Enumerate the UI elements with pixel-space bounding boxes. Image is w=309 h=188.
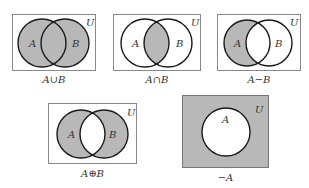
caption-union: A∪B bbox=[12, 74, 96, 85]
set-a-label: A bbox=[221, 114, 229, 125]
venn-complement: A U bbox=[182, 95, 269, 168]
venn-intersection-graphic: A B U bbox=[113, 14, 201, 71]
caption-difference: A−B bbox=[217, 74, 301, 85]
universe-label: U bbox=[191, 17, 200, 28]
set-b-label: B bbox=[71, 38, 79, 49]
venn-difference: A B U bbox=[217, 14, 301, 71]
venn-intersection: A B U bbox=[113, 14, 201, 71]
set-a-label: A bbox=[233, 38, 241, 49]
universe-label: U bbox=[127, 107, 136, 118]
caption-symmetric-difference: A⊕B bbox=[48, 168, 137, 179]
universe-label: U bbox=[255, 104, 264, 115]
venn-symmetric-difference-graphic: A B U bbox=[48, 103, 137, 164]
set-b-label: B bbox=[108, 129, 116, 140]
set-b-label: B bbox=[175, 38, 183, 49]
set-a-label: A bbox=[131, 38, 139, 49]
universe-label: U bbox=[290, 17, 299, 28]
universe-label: U bbox=[86, 17, 95, 28]
caption-complement: −A bbox=[182, 172, 269, 183]
set-b-label: B bbox=[274, 38, 282, 49]
set-a-label: A bbox=[28, 38, 36, 49]
venn-difference-graphic: A B U bbox=[217, 14, 301, 71]
caption-intersection: A∩B bbox=[113, 74, 201, 85]
venn-union: A B U bbox=[12, 14, 96, 71]
venn-symmetric-difference: A B U bbox=[48, 103, 137, 164]
set-a-label: A bbox=[67, 129, 75, 140]
venn-complement-graphic: A U bbox=[182, 95, 269, 168]
venn-union-graphic: A B U bbox=[12, 14, 96, 71]
